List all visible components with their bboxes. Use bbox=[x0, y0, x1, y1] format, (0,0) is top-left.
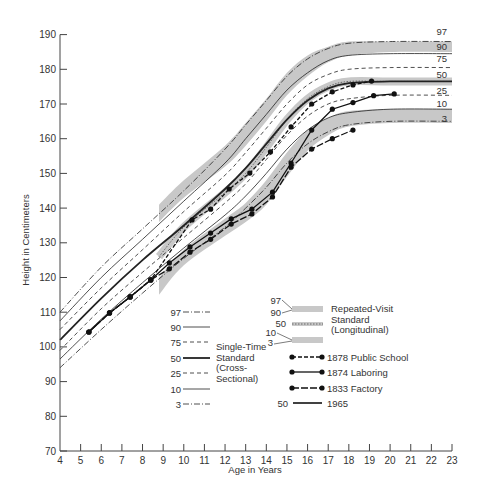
data-point bbox=[128, 294, 133, 299]
legend-series-label: 1874 Laboring bbox=[327, 367, 388, 378]
y-tick-label: 80 bbox=[45, 411, 57, 422]
longitudinal-bands bbox=[159, 41, 452, 295]
y-tick-label: 140 bbox=[39, 203, 56, 214]
right-label-10: 10 bbox=[436, 98, 447, 109]
legend-long-title: (Longitudinal) bbox=[331, 324, 389, 335]
data-point bbox=[208, 237, 213, 242]
y-tick-label: 150 bbox=[39, 168, 56, 179]
data-point bbox=[371, 93, 376, 98]
y-tick-label: 100 bbox=[39, 341, 56, 352]
data-point bbox=[288, 124, 293, 129]
y-tick-label: 90 bbox=[45, 376, 57, 387]
data-point bbox=[187, 250, 192, 255]
legend: 9790755025103Single-TimeStandard(Cross-S… bbox=[170, 295, 408, 410]
data-point bbox=[330, 107, 335, 112]
percentile-curve-10 bbox=[60, 109, 452, 359]
legend-pointer bbox=[277, 333, 292, 340]
data-point bbox=[330, 89, 335, 94]
legend-pointer bbox=[274, 341, 292, 344]
data-point bbox=[107, 310, 112, 315]
x-tick-label: 7 bbox=[119, 455, 125, 466]
data-point bbox=[309, 127, 314, 132]
x-axis-label: Age in Years bbox=[228, 464, 282, 475]
x-tick-label: 19 bbox=[364, 455, 376, 466]
data-point bbox=[268, 149, 273, 154]
data-point bbox=[350, 82, 355, 87]
data-point bbox=[288, 165, 293, 170]
legend-cs-title: (Cross- bbox=[216, 362, 247, 373]
legend-series-dot bbox=[289, 354, 294, 359]
data-point bbox=[350, 100, 355, 105]
legend-long-label-50: 50 bbox=[275, 318, 286, 329]
legend-series-label: 1878 Public School bbox=[327, 352, 408, 363]
data-point bbox=[247, 170, 252, 175]
y-axis-label: Height in Centimeters bbox=[20, 194, 31, 286]
x-tick-label: 17 bbox=[323, 455, 335, 466]
data-point bbox=[229, 216, 234, 221]
data-point bbox=[309, 101, 314, 106]
legend-series-dot bbox=[289, 385, 294, 390]
legend-band-upper bbox=[292, 306, 323, 312]
legend-cs-label-25: 25 bbox=[170, 368, 181, 379]
legend-series-dot bbox=[289, 369, 294, 374]
legend-cs-title: Standard bbox=[216, 352, 255, 363]
data-point bbox=[309, 147, 314, 152]
legend-long-title: Repeated-Visit bbox=[331, 303, 394, 314]
x-tick-label: 20 bbox=[385, 455, 397, 466]
data-point bbox=[229, 221, 234, 226]
legend-pointer bbox=[282, 310, 292, 313]
legend-series-label: 1833 Factory bbox=[327, 383, 383, 394]
legend-series-label: 1965 bbox=[327, 398, 348, 409]
band-10-3 bbox=[159, 109, 452, 295]
legend-series-dot bbox=[319, 369, 324, 374]
legend-long-label-90: 90 bbox=[270, 307, 281, 318]
y-tick-label: 190 bbox=[39, 29, 56, 40]
x-tick-label: 18 bbox=[343, 455, 355, 466]
legend-cs-label-90: 90 bbox=[170, 322, 181, 333]
legend-cs-title: Single-Time bbox=[216, 341, 266, 352]
legend-long-label-3: 3 bbox=[268, 337, 273, 348]
y-tick-label: 110 bbox=[40, 307, 56, 318]
data-point bbox=[148, 277, 153, 282]
data-point bbox=[167, 266, 172, 271]
legend-cs-label-3: 3 bbox=[176, 399, 181, 410]
data-point bbox=[350, 127, 355, 132]
legend-cs-label-50: 50 bbox=[170, 353, 181, 364]
y-tick-label: 160 bbox=[39, 133, 56, 144]
x-tick-label: 22 bbox=[426, 455, 438, 466]
data-point bbox=[187, 244, 192, 249]
legend-cs-label-10: 10 bbox=[170, 384, 181, 395]
x-tick-label: 21 bbox=[405, 455, 417, 466]
y-tick-label: 130 bbox=[39, 237, 56, 248]
right-label-25: 25 bbox=[436, 85, 447, 96]
y-tick-label: 70 bbox=[45, 446, 57, 457]
legend-series-dot bbox=[319, 354, 324, 359]
legend-series-dot bbox=[319, 385, 324, 390]
legend-cs-label-75: 75 bbox=[170, 337, 181, 348]
x-tick-label: 16 bbox=[302, 455, 314, 466]
x-tick-label: 4 bbox=[57, 455, 63, 466]
data-point bbox=[167, 260, 172, 265]
legend-1965-prefix: 50 bbox=[277, 398, 288, 409]
legend-pointer bbox=[282, 300, 292, 309]
x-tick-label: 5 bbox=[78, 455, 84, 466]
legend-cs-title: Sectional) bbox=[216, 373, 258, 384]
y-tick-label: 180 bbox=[39, 64, 56, 75]
data-point bbox=[249, 207, 254, 212]
data-point bbox=[392, 91, 397, 96]
data-point bbox=[270, 190, 275, 195]
right-label-50: 50 bbox=[436, 69, 447, 80]
data-point bbox=[86, 329, 91, 334]
x-tick-label: 10 bbox=[178, 455, 190, 466]
data-point bbox=[227, 186, 232, 191]
data-point bbox=[369, 78, 374, 83]
legend-long-label-97: 97 bbox=[270, 295, 281, 306]
x-tick-label: 11 bbox=[199, 455, 210, 466]
legend-long-title: Standard bbox=[331, 314, 370, 325]
data-point bbox=[208, 230, 213, 235]
x-tick-label: 9 bbox=[160, 455, 166, 466]
legend-band-lower bbox=[292, 337, 323, 343]
right-label-97: 97 bbox=[436, 26, 447, 37]
y-tick-label: 120 bbox=[39, 272, 56, 283]
data-point bbox=[249, 211, 254, 216]
